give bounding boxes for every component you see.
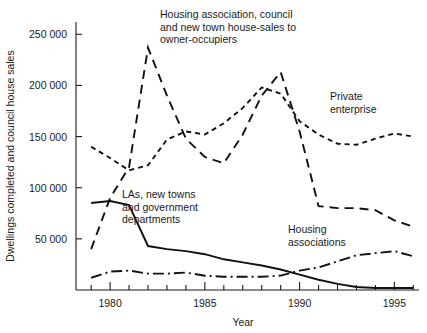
y-tick-label-150000: 150 000 <box>29 131 67 143</box>
x-tick-label-1990: 1990 <box>288 297 312 309</box>
annot-private-line-0: Private <box>330 90 363 102</box>
annot-ha-line-1: associations <box>288 236 346 248</box>
x-tick-label-1985: 1985 <box>193 297 217 309</box>
chart-background <box>0 0 427 333</box>
line-chart: 50 000100 000150 000200 000250 000 19801… <box>0 0 427 333</box>
x-tick-label-1995: 1995 <box>383 297 407 309</box>
annot-sales-line-0: Housing association, council <box>160 8 293 20</box>
y-axis-title: Dwellings completed and council house sa… <box>4 50 16 261</box>
annot-private-line-1: enterprise <box>330 103 377 115</box>
x-tick-label-1980: 1980 <box>98 297 122 309</box>
annot-las-line-0: LAs, new towns <box>122 188 196 200</box>
annot-sales-line-1: and new town house-sales to <box>160 21 296 33</box>
y-tick-label-100000: 100 000 <box>29 182 67 194</box>
y-tick-label-50000: 50 000 <box>35 233 67 245</box>
y-tick-label-200000: 200 000 <box>29 79 67 91</box>
y-tick-label-250000: 250 000 <box>29 28 67 40</box>
annot-las-line-2: departments <box>122 213 180 225</box>
annot-ha-line-0: Housing <box>288 223 327 235</box>
x-axis-title: Year <box>232 316 254 328</box>
annot-las-line-1: and government <box>122 201 198 213</box>
chart-container: 50 000100 000150 000200 000250 000 19801… <box>0 0 427 333</box>
annot-sales-line-2: owner-occupiers <box>160 33 237 45</box>
